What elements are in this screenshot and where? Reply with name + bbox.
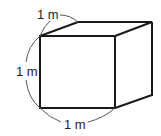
top-dimension-arc-right [60,15,78,22]
cube-front-face [40,36,115,108]
bottom-dimension-arc-left [40,108,61,122]
left-edge-label: 1 m [16,64,38,79]
bottom-edge-label: 1 m [64,117,86,132]
left-dimension-arc-bottom [26,80,40,108]
top-edge-label: 1 m [37,7,59,22]
cube-top-face [40,22,152,36]
left-dimension-arc-top [26,36,40,62]
cube-diagram: 1 m 1 m 1 m [0,0,161,136]
bottom-dimension-arc-right [88,108,115,122]
